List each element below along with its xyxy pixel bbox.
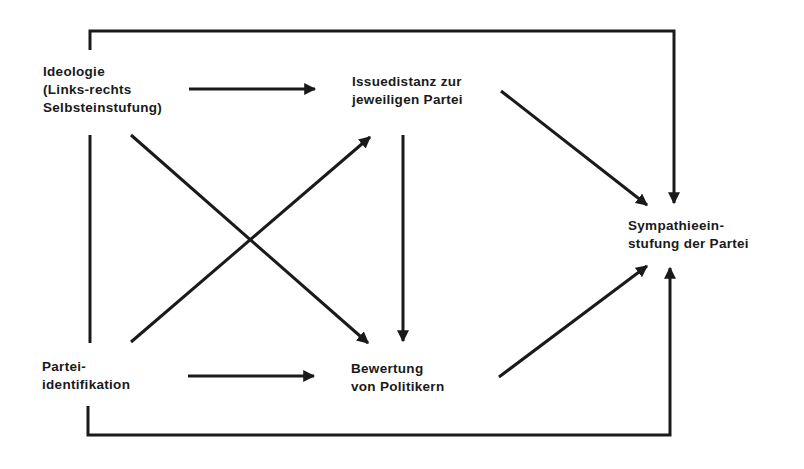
node-label-line: stufung der Partei [628, 235, 749, 253]
node-ideologie: Ideologie (Links-rechts Selbsteinstufung… [43, 63, 162, 117]
edge-parteiidentifikation-sympathie [88, 268, 670, 435]
node-label-line: Issuedistanz zur [352, 73, 463, 91]
node-bewertung: Bewertung von Politikern [351, 360, 444, 396]
node-issuedistanz: Issuedistanz zur jeweiligen Partei [352, 73, 463, 109]
node-label-line: (Links-rechts [43, 81, 162, 99]
node-label-line: Ideologie [43, 63, 162, 81]
node-parteiidentifikation: Partei- identifikation [42, 358, 130, 394]
edge-issuedistanz-sympathie [501, 91, 647, 205]
node-label-line: identifikation [42, 376, 130, 394]
node-label-line: von Politikern [351, 378, 444, 396]
node-sympathie: Sympathieein- stufung der Partei [628, 217, 749, 253]
node-label-line: Sympathieein- [628, 217, 749, 235]
edge-bewertung-sympathie [499, 266, 647, 377]
node-label-line: Partei- [42, 358, 130, 376]
node-label-line: Bewertung [351, 360, 444, 378]
node-label-line: jeweiligen Partei [352, 91, 463, 109]
node-label-line: Selbsteinstufung) [43, 99, 162, 117]
